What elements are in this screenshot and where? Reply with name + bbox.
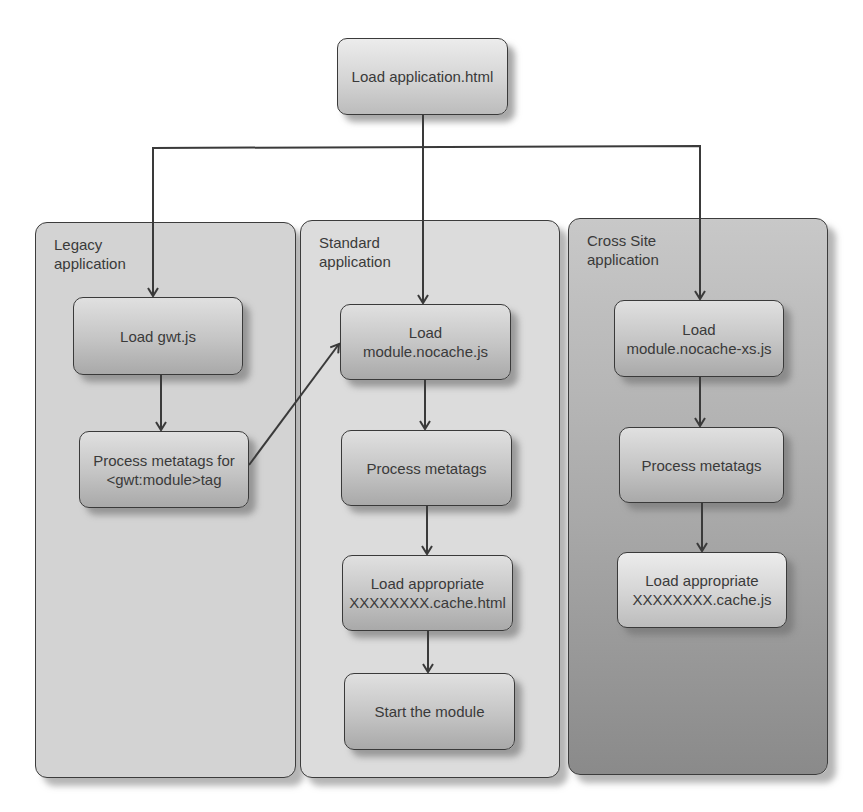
node-load-gwt-js: Load gwt.js: [73, 297, 243, 375]
node-load-application-html: Load application.html: [337, 38, 508, 115]
node-standard-process-metatags: Process metatags: [341, 430, 512, 506]
gwt-bootstrap-flowchart: Legacy application Standard application …: [0, 0, 863, 812]
node-load-cache-html: Load appropriate XXXXXXXX.cache.html: [342, 555, 513, 631]
legacy-panel-title: Legacy application: [54, 235, 126, 273]
node-load-module-nocache-js: Load module.nocache.js: [340, 304, 511, 380]
cross-site-panel-title: Cross Site application: [587, 231, 659, 269]
node-start-the-module: Start the module: [344, 673, 515, 750]
node-process-metatags-gwt-module: Process metatags for <gwt:module>tag: [79, 431, 249, 508]
node-load-module-nocache-xs-js: Load module.nocache-xs.js: [614, 300, 784, 377]
node-cross-site-process-metatags: Process metatags: [619, 427, 784, 503]
node-load-cache-js: Load appropriate XXXXXXXX.cache.js: [617, 552, 787, 628]
standard-panel-title: Standard application: [319, 233, 391, 271]
